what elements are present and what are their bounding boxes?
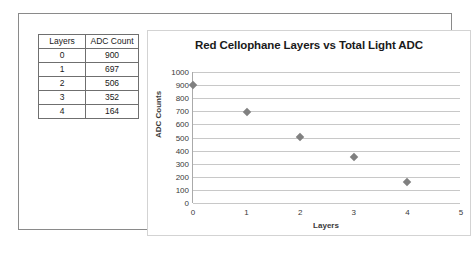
y-tick-label: 0 bbox=[185, 199, 189, 208]
y-axis-label: ADC Counts bbox=[154, 91, 163, 138]
chart-title: Red Cellophane Layers vs Total Light ADC bbox=[148, 39, 470, 51]
chart-container: Red Cellophane Layers vs Total Light ADC… bbox=[147, 30, 471, 236]
y-tick-label: 900 bbox=[176, 81, 189, 90]
table-header-layers: Layers bbox=[39, 35, 86, 49]
cell-layers: 0 bbox=[39, 49, 86, 63]
gridline bbox=[193, 124, 460, 125]
x-tick-label: 1 bbox=[244, 208, 248, 217]
data-point-marker bbox=[403, 177, 411, 185]
y-tick-label: 400 bbox=[176, 146, 189, 155]
table-header-adc-count: ADC Count bbox=[86, 35, 139, 49]
cell-adc-count: 900 bbox=[86, 49, 139, 63]
table-row: 2506 bbox=[39, 77, 139, 91]
gridline bbox=[193, 72, 460, 73]
data-table: Layers ADC Count 09001697250633524164 bbox=[38, 34, 139, 119]
cell-layers: 4 bbox=[39, 105, 86, 119]
table-row: 3352 bbox=[39, 91, 139, 105]
y-tick-label: 600 bbox=[176, 120, 189, 129]
table-body: 09001697250633524164 bbox=[39, 49, 139, 119]
x-tick-label: 3 bbox=[352, 208, 356, 217]
gridline bbox=[193, 85, 460, 86]
cell-adc-count: 697 bbox=[86, 63, 139, 77]
y-tick-label: 700 bbox=[176, 107, 189, 116]
plot-area: 01002003004005006007008009001000012345 bbox=[192, 72, 460, 203]
y-tick-label: 200 bbox=[176, 172, 189, 181]
gridline bbox=[193, 203, 460, 204]
cell-adc-count: 164 bbox=[86, 105, 139, 119]
cell-adc-count: 506 bbox=[86, 77, 139, 91]
table-header-row: Layers ADC Count bbox=[39, 35, 139, 49]
gridline bbox=[193, 177, 460, 178]
y-tick-label: 800 bbox=[176, 94, 189, 103]
y-tick-label: 1000 bbox=[171, 68, 189, 77]
y-tick-label: 300 bbox=[176, 159, 189, 168]
x-tick-label: 2 bbox=[298, 208, 302, 217]
gridline bbox=[193, 111, 460, 112]
table-row: 4164 bbox=[39, 105, 139, 119]
data-point-marker bbox=[189, 81, 197, 89]
gridline bbox=[193, 138, 460, 139]
gridline bbox=[193, 151, 460, 152]
table-row: 1697 bbox=[39, 63, 139, 77]
gridline bbox=[193, 98, 460, 99]
cell-layers: 3 bbox=[39, 91, 86, 105]
cell-layers: 1 bbox=[39, 63, 86, 77]
x-tick-label: 4 bbox=[405, 208, 409, 217]
cell-layers: 2 bbox=[39, 77, 86, 91]
data-point-marker bbox=[350, 153, 358, 161]
y-tick-label: 500 bbox=[176, 133, 189, 142]
document-frame: Layers ADC Count 09001697250633524164 Re… bbox=[18, 13, 452, 230]
x-tick-label: 0 bbox=[191, 208, 195, 217]
cell-adc-count: 352 bbox=[86, 91, 139, 105]
table-row: 0900 bbox=[39, 49, 139, 63]
gridline bbox=[193, 164, 460, 165]
data-point-marker bbox=[242, 107, 250, 115]
x-tick-label: 5 bbox=[459, 208, 463, 217]
x-axis-label: Layers bbox=[192, 221, 460, 230]
data-point-marker bbox=[296, 132, 304, 140]
y-tick-label: 100 bbox=[176, 185, 189, 194]
gridline bbox=[193, 190, 460, 191]
